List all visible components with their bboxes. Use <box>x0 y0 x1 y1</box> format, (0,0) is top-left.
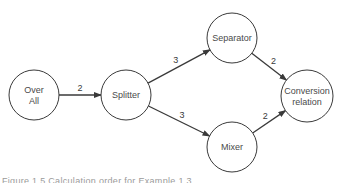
edge-label: 3 <box>180 110 185 120</box>
edge-label: 2 <box>271 56 276 66</box>
node-label: Over <box>24 85 44 95</box>
node-separator: Separator <box>207 13 257 63</box>
node-splitter: Splitter <box>101 70 151 120</box>
flow-diagram: 23322 OverAllSplitterSeparatorMixerConve… <box>0 0 344 183</box>
node-label: Separator <box>212 33 252 43</box>
figure-caption: Figure 1.5 Calculation order for Example… <box>2 176 192 183</box>
edge-mixer-to-conversion_relation <box>253 111 286 133</box>
node-over-all: OverAll <box>9 70 59 120</box>
edge-label: 2 <box>77 83 82 93</box>
nodes-group: OverAllSplitterSeparatorMixerConversionr… <box>9 13 333 172</box>
node-conversion-relation: Conversionrelation <box>281 70 333 122</box>
edge-label: 2 <box>263 111 268 121</box>
edge-separator-to-conversion_relation <box>252 53 287 80</box>
edge-label: 3 <box>173 55 178 65</box>
node-label: All <box>29 96 39 106</box>
node-label: Mixer <box>221 142 243 152</box>
edge-splitter-to-separator <box>148 50 210 83</box>
node-label: relation <box>292 97 322 107</box>
node-mixer: Mixer <box>207 122 257 172</box>
node-label: Splitter <box>112 90 140 100</box>
edges-group: 23322 <box>59 50 286 136</box>
node-label: Conversion <box>284 86 330 96</box>
